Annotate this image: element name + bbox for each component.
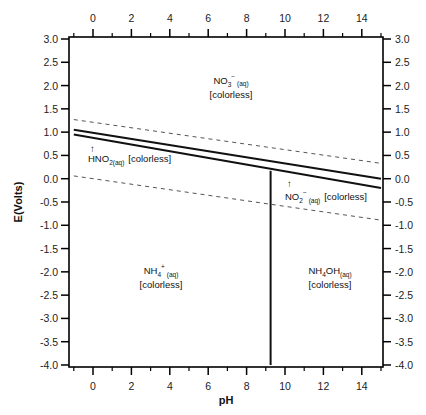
svg-text:NH4OH(aq): NH4OH(aq) [308, 265, 351, 279]
label-nh4: NH4+(aq) [colorless] [140, 263, 183, 290]
x-tick-label-top: 0 [90, 12, 96, 24]
y-tick-label-left: 0.0 [43, 173, 58, 185]
label-hno2: ↑ HNO2(aq)[colorless] [88, 143, 171, 167]
svg-text:[colorless]: [colorless] [210, 89, 253, 100]
x-tick-label-bottom: 8 [244, 380, 250, 392]
x-tick-label-top: 10 [279, 12, 291, 24]
y-tick-label-right: -1.5 [395, 243, 413, 255]
water-stability-line [74, 120, 381, 164]
svg-text:[colorless]: [colorless] [140, 279, 183, 290]
y-tick-label-right: -1.0 [395, 219, 413, 231]
y-tick-label-left: -4.0 [40, 359, 58, 371]
x-tick-label-bottom: 12 [318, 380, 330, 392]
y-tick-label-left: -2.0 [40, 266, 58, 278]
y-tick-label-left: -3.0 [40, 312, 58, 324]
phase-boundary-line [74, 130, 381, 179]
label-no2: ↑ NO2−(aq)[colorless] [285, 178, 367, 205]
y-tick-label-left: 3.0 [43, 33, 58, 45]
label-no3: NO3−(aq) [colorless] [210, 73, 253, 100]
y-tick-label-right: 3.0 [395, 33, 410, 45]
svg-text:NH4+(aq): NH4+(aq) [144, 263, 179, 279]
y-tick-label-left: 2.0 [43, 80, 58, 92]
y-tick-label-right: 2.0 [395, 80, 410, 92]
y-tick-label-left: -0.5 [40, 196, 58, 208]
svg-text:NO3−(aq): NO3−(aq) [213, 73, 248, 88]
y-tick-label-right: 1.0 [395, 126, 410, 138]
y-tick-label-left: 0.5 [43, 149, 58, 161]
y-tick-label-left: 2.5 [43, 56, 58, 68]
x-tick-label-top: 6 [205, 12, 211, 24]
y-tick-label-right: -3.5 [395, 336, 413, 348]
y-tick-label-right: 0.0 [395, 173, 410, 185]
x-tick-label-bottom: 6 [205, 380, 211, 392]
x-tick-label-top: 2 [128, 12, 134, 24]
y-tick-label-left: 1.5 [43, 103, 58, 115]
y-tick-label-right: -2.0 [395, 266, 413, 278]
svg-text:[colorless]: [colorless] [309, 279, 352, 290]
x-tick-label-bottom: 10 [279, 380, 291, 392]
y-tick-label-right: -3.0 [395, 312, 413, 324]
y-tick-label-left: -2.5 [40, 289, 58, 301]
x-tick-label-bottom: 0 [90, 380, 96, 392]
x-tick-label-top: 4 [167, 12, 173, 24]
x-tick-label-bottom: 14 [356, 380, 368, 392]
y-tick-label-right: -4.0 [395, 359, 413, 371]
y-tick-label-right: 2.5 [395, 56, 410, 68]
x-tick-label-top: 14 [356, 12, 368, 24]
y-tick-label-right: 0.5 [395, 149, 410, 161]
boundary-lines [74, 120, 381, 365]
x-tick-label-top: 8 [244, 12, 250, 24]
x-tick-label-top: 12 [318, 12, 330, 24]
pourbaix-chart: 00224466881010121214143.03.02.52.52.02.0… [0, 0, 426, 415]
x-tick-label-bottom: 4 [167, 380, 173, 392]
y-tick-label-left: 1.0 [43, 126, 58, 138]
label-nh4oh: NH4OH(aq) [colorless] [308, 265, 351, 290]
y-axis-title: E(Volts) [12, 181, 24, 222]
x-tick-label-bottom: 2 [128, 380, 134, 392]
svg-text:HNO2(aq)[colorless]: HNO2(aq)[colorless] [88, 153, 171, 167]
y-tick-label-right: 1.5 [395, 103, 410, 115]
y-tick-label-left: -1.5 [40, 243, 58, 255]
y-tick-label-right: -2.5 [395, 289, 413, 301]
up-arrow-icon: ↑ [287, 178, 292, 189]
svg-text:NO2−(aq)[colorless]: NO2−(aq)[colorless] [285, 189, 367, 205]
y-tick-label-right: -0.5 [395, 196, 413, 208]
axis-ticks: 00224466881010121214143.03.02.52.52.02.0… [40, 12, 413, 392]
plot-frame [69, 37, 383, 367]
y-tick-label-left: -3.5 [40, 336, 58, 348]
y-tick-label-left: -1.0 [40, 219, 58, 231]
x-axis-title: pH [219, 394, 234, 406]
